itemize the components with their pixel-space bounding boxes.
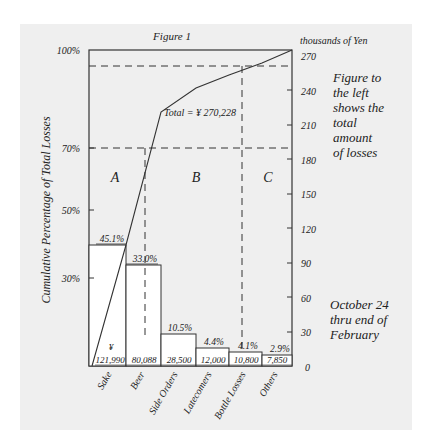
svg-text:240: 240 — [301, 86, 316, 97]
svg-text:121,990: 121,990 — [95, 355, 125, 365]
zone-b-label: B — [192, 170, 201, 185]
svg-text:33.0%: 33.0% — [132, 254, 158, 264]
svg-text:270: 270 — [301, 51, 316, 62]
bars — [89, 245, 292, 366]
svg-text:90: 90 — [301, 258, 311, 269]
total-label: Total = ¥ 270,228 — [164, 107, 236, 118]
note-total-losses: Figure to the left shows the total amoun… — [333, 70, 384, 160]
svg-text:Bottle Losses: Bottle Losses — [212, 369, 248, 421]
svg-text:2.9%: 2.9% — [270, 344, 290, 354]
svg-text:210: 210 — [301, 120, 316, 131]
svg-text:150: 150 — [301, 189, 316, 200]
svg-text:Others: Others — [257, 369, 280, 398]
svg-text:120: 120 — [301, 224, 316, 235]
left-tick-30: 30% — [61, 273, 80, 284]
note-date-range: October 24 thru end of February — [330, 297, 389, 342]
svg-text:Beer: Beer — [128, 369, 147, 391]
svg-text:30: 30 — [300, 327, 311, 338]
left-tick-50: 50% — [62, 205, 80, 216]
right-axis-ticks — [287, 90, 292, 332]
left-tick-70: 70% — [62, 143, 80, 154]
pareto-chart: Figure 1 thousands of Yen 100% 70% 50% 3… — [0, 0, 427, 447]
svg-text:4.4%: 4.4% — [204, 337, 224, 347]
svg-text:Sake: Sake — [95, 369, 114, 391]
right-tick-labels: 270 240 210 180 150 120 90 60 30 0 — [300, 51, 316, 373]
svg-text:12,000: 12,000 — [201, 355, 226, 365]
svg-text:Side Orders: Side Orders — [146, 369, 179, 416]
svg-text:10.5%: 10.5% — [168, 323, 193, 333]
bar-beer — [126, 265, 161, 366]
zone-c-label: C — [263, 170, 273, 185]
svg-text:0: 0 — [305, 362, 310, 373]
svg-text:10,800: 10,800 — [234, 355, 259, 365]
right-axis-unit: thousands of Yen — [300, 35, 367, 46]
left-axis-label: Cumulative Percentage of Total Losses — [39, 116, 53, 303]
figure-title: Figure 1 — [152, 30, 191, 42]
left-tick-100: 100% — [57, 45, 80, 56]
svg-text:80,088: 80,088 — [132, 355, 157, 365]
svg-text:45.1%: 45.1% — [100, 234, 125, 244]
svg-text:180: 180 — [301, 155, 316, 166]
svg-text:7,850: 7,850 — [267, 355, 288, 365]
svg-text:Latecomers: Latecomers — [180, 369, 213, 416]
svg-text:28,500: 28,500 — [167, 355, 192, 365]
zone-a-label: A — [110, 170, 120, 185]
svg-text:60: 60 — [301, 293, 311, 304]
category-labels: Sake Beer Side Orders Latecomers Bottle … — [95, 369, 280, 421]
svg-text:4.1%: 4.1% — [238, 341, 258, 351]
